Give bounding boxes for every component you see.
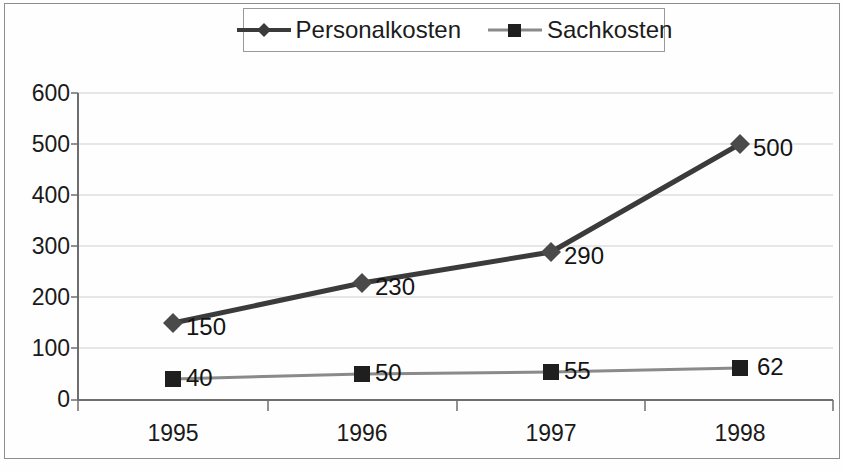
data-label-sachkosten-1998: 62 xyxy=(757,353,784,381)
chart-container: Personalkosten Sachkosten xyxy=(0,0,843,473)
ytick-label-300: 300 xyxy=(0,233,70,260)
data-label-personalkosten-1997: 290 xyxy=(564,242,604,270)
series-sachkosten xyxy=(165,360,748,387)
ytick-label-200: 200 xyxy=(0,284,70,311)
xtick-label-1995: 1995 xyxy=(113,420,233,447)
xtick-label-1997: 1997 xyxy=(491,420,611,447)
data-label-sachkosten-1997: 55 xyxy=(564,357,591,385)
data-label-personalkosten-1998: 500 xyxy=(753,134,793,162)
data-label-sachkosten-1995: 40 xyxy=(186,364,213,392)
ytick-label-600: 600 xyxy=(0,80,70,107)
ytick-label-500: 500 xyxy=(0,131,70,158)
xtick-label-1998: 1998 xyxy=(680,420,800,447)
series-personalkosten xyxy=(163,134,750,333)
data-label-personalkosten-1995: 150 xyxy=(186,313,226,341)
chart-gridlines xyxy=(78,93,833,348)
xtick-label-1996: 1996 xyxy=(302,420,422,447)
ytick-label-100: 100 xyxy=(0,335,70,362)
chart-plot-area xyxy=(0,0,843,473)
ytick-label-400: 400 xyxy=(0,182,70,209)
data-label-personalkosten-1996: 230 xyxy=(375,273,415,301)
data-label-sachkosten-1996: 50 xyxy=(375,359,402,387)
ytick-label-0: 0 xyxy=(0,386,70,413)
